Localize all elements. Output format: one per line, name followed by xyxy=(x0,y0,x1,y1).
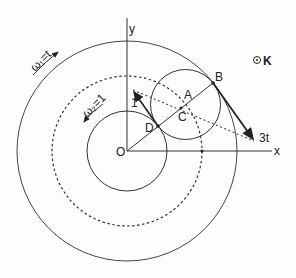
label-c: C xyxy=(178,110,187,124)
x-axis-label: x xyxy=(274,144,280,158)
point-x-dashed xyxy=(201,150,204,153)
vector-at-b xyxy=(213,83,253,139)
omega1-label: ω₁=t xyxy=(27,47,54,74)
label-d: D xyxy=(145,121,154,135)
frame-label: K xyxy=(263,54,272,68)
label-b: B xyxy=(215,70,223,84)
origin-label: O xyxy=(116,145,125,159)
geometry-figure: y x O A B C D 1 3t K ω₁=t ω₂=1 xyxy=(0,0,296,278)
diagram-canvas: y x O A B C D 1 3t K ω₁=t ω₂=1 xyxy=(0,0,296,278)
y-axis-label: y xyxy=(129,22,135,36)
vector-b-label: 3t xyxy=(259,131,270,145)
omega2-label: ω₂=1 xyxy=(79,90,109,120)
point-d xyxy=(156,124,160,128)
vector-d-label: 1 xyxy=(131,96,138,110)
frame-k-label: K xyxy=(254,54,273,68)
label-a: A xyxy=(184,88,192,102)
radius-line-ob xyxy=(127,83,213,151)
